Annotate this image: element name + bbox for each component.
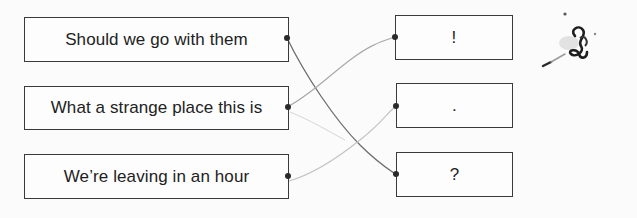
sentence-box-3[interactable]: We’re leaving in an hour — [24, 154, 289, 199]
sentence-box-2[interactable]: What a strange place this is — [24, 86, 289, 130]
connector-line-3 — [289, 106, 396, 181]
ink-scribble-smudge — [535, 8, 605, 73]
punctuation-text-2: . — [452, 96, 457, 116]
question-anchor-dot[interactable] — [393, 171, 399, 177]
sentence-text-1: Should we go with them — [65, 30, 248, 50]
sentence-text-3: We’re leaving in an hour — [64, 167, 249, 187]
sentence-2-anchor-dot[interactable] — [285, 104, 291, 110]
sentence-1-anchor-dot[interactable] — [284, 35, 290, 41]
sentence-box-1[interactable]: Should we go with them — [24, 17, 289, 62]
period-anchor-dot[interactable] — [393, 103, 399, 109]
punctuation-box-question[interactable]: ? — [396, 152, 513, 197]
punctuation-box-period[interactable]: . — [396, 83, 513, 128]
punctuation-text-3: ? — [450, 165, 460, 185]
sentence-text-2: What a strange place this is — [51, 98, 263, 118]
stray-pencil-line — [290, 112, 345, 140]
punctuation-box-exclamation[interactable]: ! — [395, 15, 513, 60]
exclamation-anchor-dot[interactable] — [392, 34, 398, 40]
sentence-3-anchor-dot[interactable] — [285, 173, 291, 179]
connector-line-1 — [287, 38, 407, 183]
punctuation-text-1: ! — [452, 28, 457, 48]
